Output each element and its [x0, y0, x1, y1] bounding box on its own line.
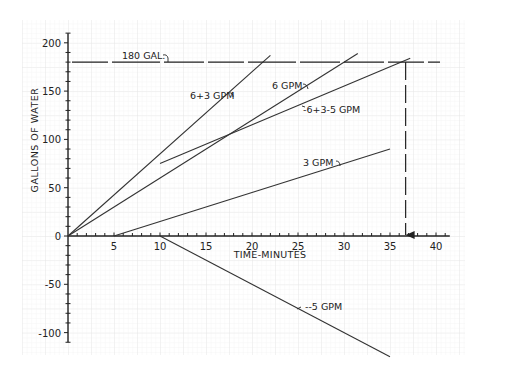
y-tick-label: 0 [55, 231, 61, 242]
x-tick-label: 5 [111, 241, 117, 252]
label-6-3-5-gpm: -6+3-5 GPM [303, 104, 360, 115]
label-180-gal: 180 GAL. [122, 50, 165, 61]
y-tick-label: 200 [42, 38, 61, 49]
y-tick-label: -100 [38, 328, 61, 339]
x-tick-label: 15 [200, 241, 213, 252]
graph-paper [22, 20, 465, 355]
label-6-gpm: 6 GPM [272, 80, 302, 91]
y-tick-label: 50 [48, 183, 61, 194]
y-tick-label: 100 [42, 134, 61, 145]
x-tick-label: 30 [338, 241, 351, 252]
y-tick-label: 150 [42, 86, 61, 97]
x-tick-label: 35 [384, 241, 397, 252]
y-axis-title: GALLONS OF WATER [29, 88, 40, 193]
y-tick-label: -50 [45, 279, 61, 290]
label-6-3-gpm: 6+3 GPM [190, 90, 234, 101]
label-minus-5-gpm: --5 GPM [305, 301, 342, 312]
x-tick-label: 40 [430, 241, 443, 252]
x-axis-title: TIME-MINUTES [233, 249, 307, 260]
label-3-gpm: 3 GPM [303, 157, 333, 168]
x-tick-label: 10 [154, 241, 167, 252]
chart: 200150100500-50-100510152025303540GALLON… [0, 0, 510, 385]
